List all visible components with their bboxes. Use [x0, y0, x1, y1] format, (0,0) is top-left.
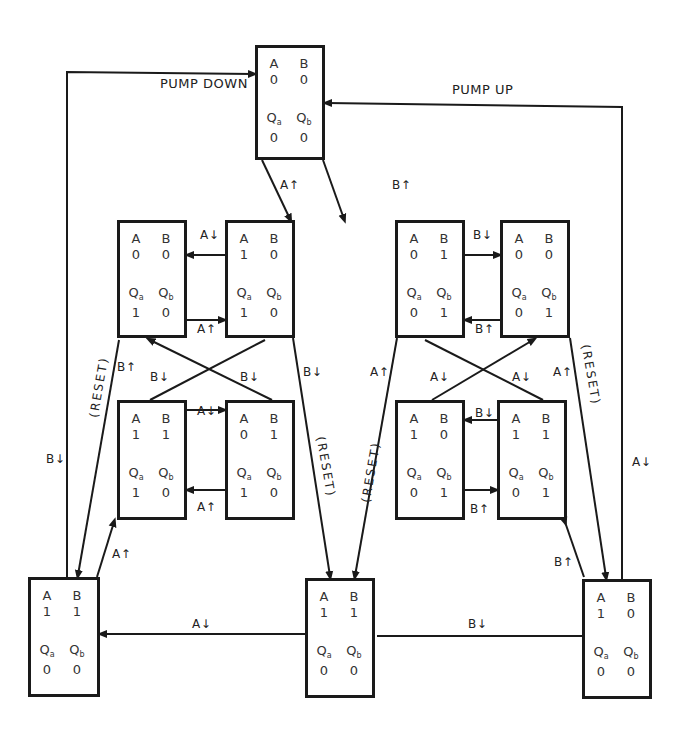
label-a-up: A↑	[553, 365, 572, 379]
header-b: B	[294, 56, 314, 71]
value-a: 1	[404, 427, 424, 442]
header-b: B	[434, 411, 454, 426]
value-a: 1	[591, 606, 611, 621]
label-b-down: B↓	[468, 617, 487, 631]
value-qb: 0	[264, 485, 284, 500]
header-qb: Qb	[434, 285, 454, 302]
value-qb: 0	[156, 305, 176, 320]
label-b-down: B↓	[46, 452, 65, 466]
value-qa: 1	[126, 305, 146, 320]
header-b: B	[434, 231, 454, 246]
value-a: 0	[126, 247, 146, 262]
header-a: A	[506, 411, 526, 426]
header-qb: Qb	[67, 642, 87, 659]
header-b: B	[156, 411, 176, 426]
label-b-down: B↓	[240, 370, 259, 384]
value-qb: 0	[344, 663, 364, 678]
value-b: 0	[434, 427, 454, 442]
value-qa: 1	[234, 485, 254, 500]
value-qa: 1	[126, 485, 146, 500]
label-a-up: A↑	[370, 365, 389, 379]
header-a: A	[234, 231, 254, 246]
state-box: AB00QaQb10	[117, 220, 187, 338]
label-a-down: A↓	[200, 228, 219, 242]
header-qb: Qb	[344, 643, 364, 660]
label-a-down: A↓	[632, 455, 651, 469]
header-b: B	[156, 231, 176, 246]
header-qb: Qb	[264, 465, 284, 482]
value-a: 1	[314, 605, 334, 620]
label-a-up: A↑	[280, 178, 299, 192]
header-b: B	[539, 231, 559, 246]
value-b: 1	[536, 427, 556, 442]
diagram-title-pump-down: PUMP DOWN	[160, 76, 248, 91]
label-b-down: B↓	[303, 365, 322, 379]
value-b: 0	[621, 606, 641, 621]
state-box: AB11QaQb01	[497, 400, 567, 520]
label-b-down: B↓	[475, 406, 494, 420]
header-b: B	[264, 411, 284, 426]
value-qb: 0	[621, 664, 641, 679]
header-b: B	[621, 590, 641, 605]
value-qa: 0	[314, 663, 334, 678]
header-qb: Qb	[264, 285, 284, 302]
header-qb: Qb	[539, 285, 559, 302]
value-b: 0	[264, 247, 284, 262]
value-b: 0	[294, 72, 314, 87]
header-qa: Qa	[264, 110, 284, 127]
state-box: AB10QaQb01	[395, 400, 465, 520]
header-qb: Qb	[156, 285, 176, 302]
header-qb: Qb	[294, 110, 314, 127]
value-a: 0	[509, 247, 529, 262]
header-qb: Qb	[621, 644, 641, 661]
value-qb: 0	[294, 130, 314, 145]
label-a-down: A↓	[512, 370, 531, 384]
header-a: A	[404, 411, 424, 426]
state-box: AB10QaQb00	[582, 579, 652, 699]
value-qb: 0	[264, 305, 284, 320]
header-qa: Qa	[506, 465, 526, 482]
header-b: B	[67, 588, 87, 603]
label-b-up: B↑	[392, 178, 411, 192]
value-qa: 1	[234, 305, 254, 320]
state-box: AB11QaQb00	[305, 578, 375, 698]
value-b: 0	[539, 247, 559, 262]
header-a: A	[37, 588, 57, 603]
state-box: AB11QaQb10	[117, 400, 187, 520]
value-b: 1	[156, 427, 176, 442]
label-b-down: B↓	[473, 228, 492, 242]
label-a-down: A↓	[192, 617, 211, 631]
header-qa: Qa	[404, 465, 424, 482]
value-qb: 1	[539, 305, 559, 320]
header-qa: Qa	[126, 285, 146, 302]
value-qa: 0	[37, 662, 57, 677]
label-a-down: A↓	[430, 370, 449, 384]
header-qa: Qa	[234, 465, 254, 482]
header-qa: Qa	[314, 643, 334, 660]
header-qb: Qb	[156, 465, 176, 482]
header-a: A	[126, 231, 146, 246]
header-b: B	[264, 231, 284, 246]
value-qb: 1	[536, 485, 556, 500]
header-a: A	[509, 231, 529, 246]
state-box: AB11QaQb00	[28, 577, 100, 697]
value-a: 1	[506, 427, 526, 442]
value-qb: 1	[434, 485, 454, 500]
value-a: 1	[37, 604, 57, 619]
header-a: A	[126, 411, 146, 426]
value-a: 1	[234, 247, 254, 262]
header-qa: Qa	[404, 285, 424, 302]
label-a-up: A↑	[197, 500, 216, 514]
value-b: 1	[434, 247, 454, 262]
value-qa: 0	[264, 130, 284, 145]
label-a-up: A↑	[112, 547, 131, 561]
value-qa: 0	[591, 664, 611, 679]
value-qa: 0	[509, 305, 529, 320]
header-qb: Qb	[434, 465, 454, 482]
header-a: A	[264, 56, 284, 71]
header-qa: Qa	[234, 285, 254, 302]
state-box: AB00QaQb01	[500, 220, 570, 338]
header-b: B	[344, 589, 364, 604]
state-box: AB00QaQb00	[255, 45, 325, 160]
value-a: 1	[126, 427, 146, 442]
